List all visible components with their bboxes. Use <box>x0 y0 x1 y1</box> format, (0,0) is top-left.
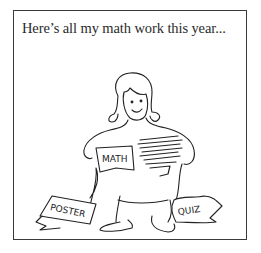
girl-eye-right <box>140 100 142 102</box>
girl-eye-left <box>131 101 133 103</box>
girl-feet <box>100 216 175 232</box>
scribbled-papers <box>138 136 182 176</box>
girl-smile <box>132 109 142 112</box>
girl-hair <box>109 73 160 122</box>
girl-face <box>123 88 147 120</box>
cartoon-illustration: MATH POSTER QUIZ <box>0 0 261 253</box>
math-paper-label: MATH <box>102 154 128 164</box>
